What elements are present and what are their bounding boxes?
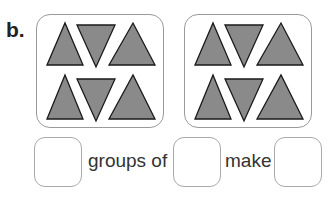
triangle-group-1 xyxy=(36,14,164,128)
answer-box-groups[interactable] xyxy=(34,137,82,187)
question-label: b. xyxy=(6,18,25,42)
make-text: make xyxy=(225,150,271,172)
answer-box-size[interactable] xyxy=(173,137,221,187)
answer-box-total[interactable] xyxy=(274,137,322,187)
triangles-icon xyxy=(185,15,313,129)
groups-of-text: groups of xyxy=(88,150,167,172)
triangle-group-2 xyxy=(184,14,312,128)
triangles-icon xyxy=(37,15,165,129)
